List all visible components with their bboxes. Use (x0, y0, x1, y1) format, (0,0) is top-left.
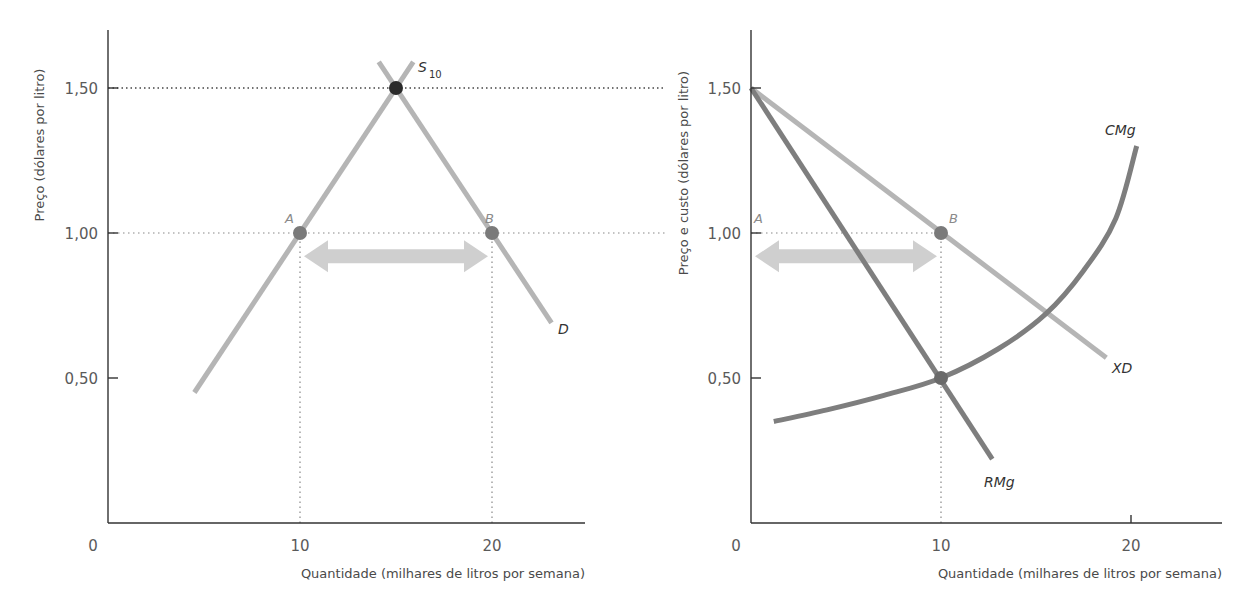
labels: Preço (dólares por litro) Quantidade (mi… (32, 59, 585, 581)
labels: Preço e custo (dólares por litro) Quanti… (676, 71, 1222, 581)
y-axis-title: Preço (dólares por litro) (32, 69, 47, 222)
x-tick-label: 10 (290, 537, 309, 555)
point-a (293, 226, 307, 240)
y-tick-label: 1,00 (65, 225, 98, 243)
curve-label-d: D (558, 321, 569, 337)
point-b (485, 226, 499, 240)
point-b (934, 226, 948, 240)
y-tick-label: 0,50 (65, 370, 98, 388)
point-equilibrium (389, 81, 403, 95)
y-tick-label: 0,50 (708, 370, 741, 388)
curve-label-xd: XD (1111, 360, 1133, 376)
y-tick-label: 1,50 (708, 80, 741, 98)
x-axis-title: Quantidade (milhares de litros por seman… (301, 566, 585, 581)
curve-rmg (751, 88, 992, 459)
point-label-a: A (753, 211, 763, 226)
curve-xd (751, 88, 1106, 358)
reference-lines (751, 233, 941, 523)
y-tick-label: 1,50 (65, 80, 98, 98)
y-tick-label: 1,00 (708, 225, 741, 243)
x-tick-label: 20 (482, 537, 501, 555)
x-axis-title: Quantidade (milhares de litros por seman… (938, 566, 1222, 581)
double-arrow (755, 240, 937, 272)
curve-cmg (774, 146, 1137, 422)
x-tick-label: 0 (731, 537, 741, 555)
curve-label-s10: S10 (418, 59, 442, 80)
x-tick-label: 0 (88, 537, 98, 555)
point-label-b: B (485, 211, 494, 226)
reference-lines (108, 88, 665, 523)
series-group (751, 88, 1137, 459)
axes (108, 30, 585, 523)
series-group (194, 62, 551, 393)
x-tick-label: 20 (1121, 537, 1140, 555)
double-arrow (304, 240, 488, 272)
chart-canvas: Preço (dólares por litro) Quantidade (mi… (0, 0, 1247, 611)
y-axis-title: Preço e custo (dólares por litro) (676, 71, 691, 275)
curve-label-rmg: RMg (984, 474, 1015, 490)
points-group (934, 226, 948, 385)
curve-d (379, 62, 552, 323)
left-chart: Preço (dólares por litro) Quantidade (mi… (32, 30, 665, 581)
curve-label-cmg: CMg (1105, 122, 1136, 138)
quantity-gap-arrow (755, 240, 937, 272)
right-chart: Preço e custo (dólares por litro) Quanti… (676, 30, 1222, 581)
excess-supply-arrow (304, 240, 488, 272)
point-label-a: A (284, 211, 294, 226)
points-group (293, 81, 499, 240)
x-tick-label: 10 (931, 537, 950, 555)
point-rmg-cmg (934, 371, 948, 385)
curve-label-subscript: 10 (429, 69, 442, 80)
point-label-b: B (949, 211, 958, 226)
